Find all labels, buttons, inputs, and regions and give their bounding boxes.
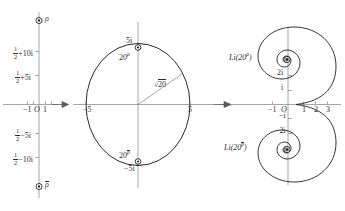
figure-canvas: ρ 1 2 +10i 1 2 +5i 1 2 −5i 1 2 −10i −1 O… <box>0 0 345 211</box>
figure-svg <box>0 0 345 211</box>
label-left-origin: O <box>34 106 40 114</box>
point-20-rhobar-marker <box>135 159 141 165</box>
label-half-plus-5i: 1 2 +5i <box>15 70 31 84</box>
label-20-pow-rho: 20ρ <box>119 52 130 62</box>
label-right-3: 3 <box>326 106 330 114</box>
label-right-i: i <box>281 84 283 92</box>
spiral-lower <box>258 105 336 183</box>
label-Li-20-rho: Li(20ρ) <box>229 52 252 62</box>
label-left-minus1: −1 <box>23 106 32 114</box>
label-right-2: 2 <box>314 106 318 114</box>
label-half-plus-10i: 1 2 +10i <box>13 46 33 60</box>
overbar-wrap: ρ <box>45 181 49 189</box>
point-20-rho-marker <box>135 45 141 51</box>
label-half-minus-10i: 1 2 −10i <box>13 152 33 166</box>
rho-bar-marker-bottom <box>36 184 42 190</box>
label-left-1: 1 <box>43 106 47 114</box>
label-center-minus5i: −5i <box>124 165 135 173</box>
overbar-wrap: ρ <box>127 150 130 156</box>
label-rho-bar-bottom: ρ <box>45 181 49 189</box>
label-20-pow-rho-bar: 20ρ <box>119 150 130 160</box>
left-axis-arrowhead <box>52 102 69 108</box>
label-center-minus5: −5 <box>83 106 92 114</box>
label-right-origin: O <box>281 106 287 114</box>
overbar-wrap: ρ <box>241 142 244 148</box>
spiral-upper <box>258 27 336 105</box>
label-right-1: 1 <box>302 106 306 114</box>
rho-marker-top <box>36 18 42 24</box>
label-rho-top: ρ <box>45 15 49 23</box>
label-sqrt-20: √20 <box>154 79 166 89</box>
Li-20-rho-marker <box>284 56 290 62</box>
label-right-minus-2i: −2i <box>275 127 286 135</box>
label-right-2i: 2i <box>277 69 283 77</box>
label-half-minus-5i: 1 2 −5i <box>15 128 31 142</box>
label-center-5i: 5i <box>126 37 132 45</box>
label-center-5: 5 <box>188 106 192 114</box>
label-right-minus1: −1 <box>268 106 277 114</box>
label-Li-20-rho-bar: Li(20ρ) <box>224 142 247 152</box>
center-axis-arrowhead <box>213 102 231 108</box>
Li-20-rhobar-marker <box>284 146 290 152</box>
